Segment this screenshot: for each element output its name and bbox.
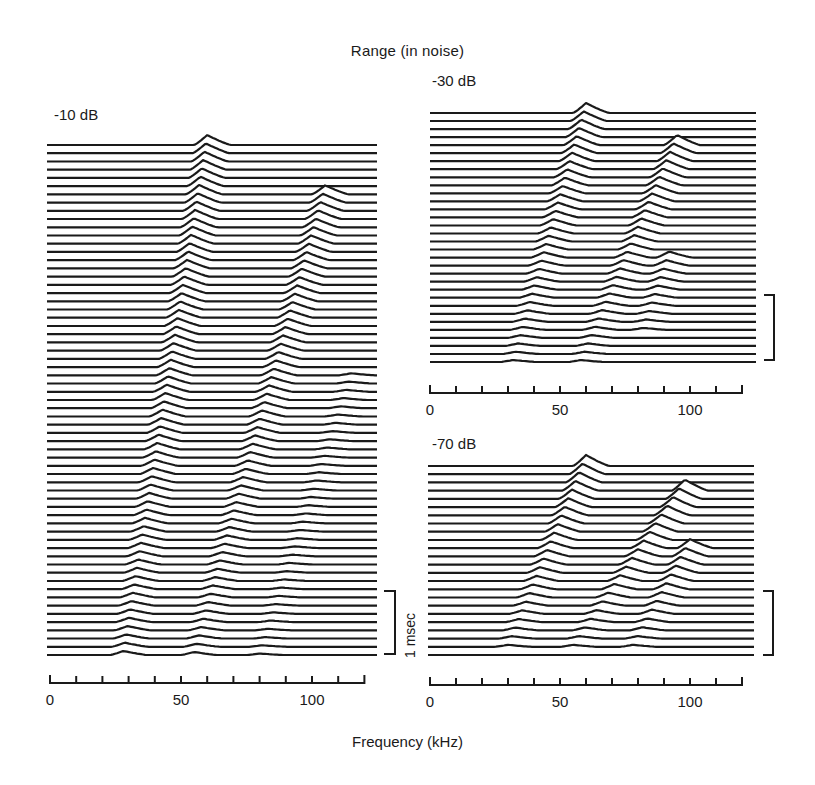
x-tick-label: 50 bbox=[552, 693, 569, 710]
panel-minus10db bbox=[47, 135, 377, 658]
spectrum-trace bbox=[430, 352, 756, 354]
spectrum-trace bbox=[428, 601, 754, 606]
spectrum-trace bbox=[47, 551, 377, 556]
spectrum-trace bbox=[47, 560, 377, 565]
spectrum-trace bbox=[47, 635, 377, 639]
spectrum-trace bbox=[47, 626, 377, 630]
spectrum-trace bbox=[430, 285, 756, 289]
frequency-axis-minus10db: 050100 bbox=[46, 675, 365, 708]
spectrum-trace bbox=[47, 468, 377, 474]
time-scale-bar-bottom-right bbox=[763, 591, 773, 655]
spectrum-trace bbox=[430, 252, 756, 258]
spectrum-trace bbox=[47, 643, 377, 647]
time-scale-bar-top-right bbox=[764, 295, 774, 360]
spectrum-trace bbox=[430, 268, 756, 273]
spectrum-trace bbox=[430, 294, 756, 298]
spectrum-trace bbox=[47, 452, 377, 458]
panel-minus70db bbox=[428, 455, 755, 658]
spectrum-trace bbox=[428, 645, 754, 647]
spectrum-trace bbox=[430, 302, 756, 306]
spectrum-trace bbox=[430, 260, 756, 265]
frequency-axis-minus30db: 050100 bbox=[426, 385, 742, 418]
scale-bar-label: 1 msec bbox=[402, 613, 418, 658]
spectrum-trace bbox=[428, 636, 754, 639]
x-tick-label: 100 bbox=[677, 401, 702, 418]
spectrum-trace bbox=[47, 502, 377, 507]
time-scale-bar-left: 1 msec bbox=[384, 591, 418, 658]
frequency-axis-minus70db: 050100 bbox=[426, 677, 742, 710]
spectrum-trace bbox=[47, 543, 377, 548]
spectrum-trace bbox=[430, 310, 756, 314]
spectrum-trace bbox=[428, 583, 754, 589]
spectrum-trace bbox=[47, 460, 377, 466]
spectrum-trace bbox=[430, 244, 756, 250]
spectrum-trace bbox=[430, 360, 756, 362]
panel-minus30db bbox=[430, 103, 757, 365]
x-tick-label: 50 bbox=[173, 691, 190, 708]
x-tick-label: 100 bbox=[299, 691, 324, 708]
spectrum-trace bbox=[428, 592, 754, 597]
spectrum-trace bbox=[47, 485, 377, 491]
x-tick-label: 0 bbox=[426, 693, 434, 710]
x-tick-label: 0 bbox=[46, 691, 54, 708]
spectrum-trace bbox=[47, 493, 377, 499]
x-tick-label: 100 bbox=[677, 693, 702, 710]
x-tick-label: 0 bbox=[426, 401, 434, 418]
spectrum-trace bbox=[47, 518, 377, 524]
waterfall-plot-area: 050100 050100 050100 1 msec bbox=[0, 0, 815, 785]
spectrum-trace bbox=[47, 527, 377, 532]
spectrum-trace bbox=[430, 277, 756, 282]
x-tick-label: 50 bbox=[552, 401, 569, 418]
spectrum-trace bbox=[47, 651, 377, 655]
spectrum-trace bbox=[47, 510, 377, 516]
spectrum-trace bbox=[47, 477, 377, 483]
spectrum-trace bbox=[47, 535, 377, 540]
